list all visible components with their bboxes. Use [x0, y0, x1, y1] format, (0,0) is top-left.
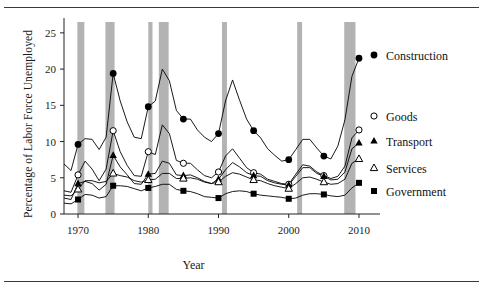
data-point-marker: [75, 197, 81, 203]
data-point-marker: [371, 188, 377, 194]
data-point-marker: [371, 113, 377, 119]
x-tick-label: 2000: [278, 224, 301, 236]
data-point-marker: [356, 180, 362, 186]
data-point-marker: [180, 160, 186, 166]
data-point-marker: [321, 191, 327, 197]
line-chart-plot: 051015202519701980199020002010Constructi…: [0, 0, 483, 290]
legend-label-goods: Goods: [386, 110, 418, 124]
legend-label-government: Government: [386, 185, 447, 199]
figure-container: Percentage of Labor Force Unemployed Yea…: [0, 0, 483, 290]
data-point-marker: [180, 116, 187, 123]
data-point-marker: [145, 185, 151, 191]
data-point-marker: [356, 55, 363, 62]
y-tick-label: 20: [45, 63, 57, 75]
y-tick-label: 5: [51, 172, 57, 184]
data-point-marker: [110, 183, 116, 189]
data-point-marker: [110, 128, 116, 134]
y-tick-label: 10: [45, 136, 57, 148]
y-tick-label: 15: [45, 99, 57, 111]
data-point-marker: [215, 130, 222, 137]
data-point-marker: [370, 164, 377, 171]
x-tick-label: 1980: [137, 224, 160, 236]
data-point-marker: [75, 141, 82, 148]
data-point-marker: [320, 153, 327, 160]
recession-band: [344, 22, 355, 214]
x-tick-label: 2010: [348, 224, 371, 236]
legend-label-construction: Construction: [386, 49, 448, 63]
data-point-marker: [286, 196, 292, 202]
data-point-marker: [145, 103, 152, 110]
data-point-marker: [110, 70, 117, 77]
data-point-marker: [251, 191, 257, 197]
data-point-marker: [180, 188, 186, 194]
data-point-marker: [370, 137, 377, 144]
data-point-marker: [371, 52, 378, 59]
data-point-marker: [145, 149, 151, 155]
data-point-marker: [215, 169, 221, 175]
data-point-marker: [216, 195, 222, 201]
data-point-marker: [75, 172, 81, 178]
x-tick-label: 1990: [208, 224, 231, 236]
data-point-marker: [355, 139, 362, 146]
data-point-marker: [355, 155, 362, 162]
recession-band: [297, 22, 302, 214]
y-tick-label: 25: [45, 27, 57, 39]
y-tick-label: 0: [51, 208, 57, 220]
legend-label-transport: Transport: [386, 135, 433, 149]
data-point-marker: [250, 127, 257, 134]
legend-label-services: Services: [386, 162, 427, 176]
data-point-marker: [356, 127, 362, 133]
x-tick-label: 1970: [67, 224, 90, 236]
data-point-marker: [285, 156, 292, 163]
